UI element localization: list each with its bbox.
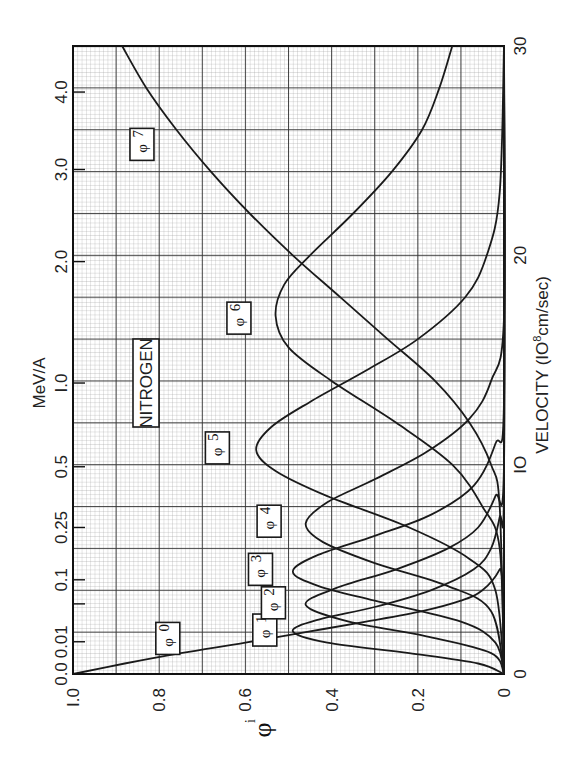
label-φ2: φ2 [261,587,285,619]
label-φ4: φ4 [257,505,281,537]
energy-tick: 0.25 [52,511,71,544]
svg-text:0: 0 [495,688,514,697]
svg-text:φ: φ [160,638,176,647]
svg-text:IO: IO [511,456,530,474]
svg-text:0: 0 [511,669,530,678]
velocity-axis-ticks: 0IO2030 [511,37,530,679]
nitrogen-label: NITROGEN [137,338,156,428]
svg-text:φ: φ [265,602,281,611]
phi-tick: 0.6 [236,688,255,712]
svg-text:φ: φ [134,144,150,153]
svg-text:φ: φ [252,569,268,578]
energy-tick: 0.1 [52,568,71,592]
phi-tick: 0.8 [150,688,169,712]
svg-text:5: 5 [205,433,221,441]
phi-tick: 0 [495,688,514,697]
label-φ0: φ0 [156,622,180,654]
phi-axis-ticks: 00.20.40.60.8I.0 [64,688,514,712]
chart: 00.20.40.60.8I.0 0IO2030 0.00.010.10.250… [0,0,583,760]
svg-text:3: 3 [248,555,264,563]
svg-text:3.0: 3.0 [52,158,71,182]
svg-text:0.2: 0.2 [409,688,428,712]
svg-text:I.0: I.0 [52,374,71,393]
label-φ6: φ6 [227,302,251,334]
svg-text:0.5: 0.5 [52,455,71,479]
svg-text:30: 30 [511,37,530,56]
svg-text:φ: φ [261,521,277,530]
svg-text:0.01: 0.01 [52,625,71,658]
svg-text:φ: φ [209,447,225,456]
energy-tick: 0.5 [52,455,71,479]
svg-text:φ: φ [231,317,247,326]
svg-text:4.0: 4.0 [52,80,71,104]
svg-text:2: 2 [261,588,277,596]
velocity-axis-title: VELOCITY (IO8cm/sec) [531,276,552,454]
energy-tick: 2.0 [52,250,71,274]
svg-text:7: 7 [130,129,146,137]
svg-text:φ: φ [248,722,277,737]
velocity-tick: IO [511,456,530,474]
svg-text:I.0: I.0 [64,688,83,707]
label-φ5: φ5 [205,432,229,464]
label-φ3: φ3 [248,553,272,585]
energy-tick: 0.0 [52,662,71,686]
svg-text:6: 6 [227,303,243,311]
phi-tick: 0.2 [409,688,428,712]
svg-text:φ: φ [257,629,273,638]
phi-tick: I.0 [64,688,83,707]
svg-text:i: i [243,719,258,723]
nitrogen-annotation: NITROGEN [133,338,159,428]
energy-tick: 0.01 [52,625,71,658]
svg-text:0.6: 0.6 [236,688,255,712]
svg-text:0.8: 0.8 [150,688,169,712]
phi-axis-title: φ i [243,719,277,738]
velocity-tick: 30 [511,37,530,56]
svg-text:0.25: 0.25 [52,511,71,544]
phi-tick: 0.4 [323,688,342,712]
energy-tick: 4.0 [52,80,71,104]
svg-text:2.0: 2.0 [52,250,71,274]
label-φ7: φ7 [130,128,154,160]
energy-axis-title: MeV/A [30,357,49,409]
velocity-tick: 20 [511,246,530,265]
svg-text:0: 0 [156,624,172,632]
svg-text:0.1: 0.1 [52,568,71,592]
svg-text:20: 20 [511,246,530,265]
svg-text:VELOCITY (IO8cm/sec): VELOCITY (IO8cm/sec) [531,276,552,454]
svg-text:0.4: 0.4 [323,688,342,712]
svg-text:0.0: 0.0 [52,662,71,686]
energy-tick: 3.0 [52,158,71,182]
velocity-tick: 0 [511,669,530,678]
svg-text:4: 4 [257,506,273,514]
energy-tick: I.0 [52,374,71,393]
